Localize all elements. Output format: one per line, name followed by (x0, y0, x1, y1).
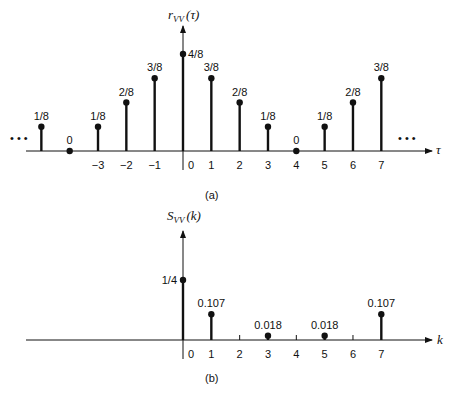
a-tick-label: 6 (350, 159, 356, 171)
a-stem: 2/8 (232, 86, 247, 152)
a-value-label: 2/8 (232, 86, 247, 98)
a-tick-label: 2 (237, 159, 243, 171)
b-tick-label: 1 (208, 348, 214, 360)
a-value-label: 3/8 (374, 61, 389, 73)
a-value-label: 0 (67, 134, 73, 146)
b-tick-label: 4 (293, 348, 299, 360)
a-tick-label: 7 (378, 159, 384, 171)
b-stem: 0.107 (368, 297, 396, 340)
b-stem: 1/4 (162, 274, 186, 340)
a-stem: 3/8 (147, 61, 162, 151)
a-tick-label: 1 (208, 159, 214, 171)
b-tick-label: 3 (265, 348, 271, 360)
a-value-label: 2/8 (119, 86, 134, 98)
b-ylabel: SVV(k) (167, 208, 201, 225)
a-stem: 1/8 (260, 110, 275, 151)
a-value-label: 1/8 (317, 110, 332, 122)
b-panel-label: (b) (205, 372, 218, 384)
a-stem: 1/8 (90, 110, 105, 151)
panel-a: rVV(τ) τ • • • • • • 1/801/82/83/84/83/8… (10, 7, 442, 201)
b-tick-label: 0 (188, 348, 194, 360)
a-tick-label: −2 (120, 159, 133, 171)
a-value-label: 0 (293, 134, 299, 146)
a-tick-label: 4 (293, 159, 299, 171)
a-value-label: 2/8 (345, 86, 360, 98)
a-value-label: 3/8 (147, 61, 162, 73)
a-stem: 1/8 (34, 110, 49, 151)
b-value-label: 0.107 (368, 297, 396, 309)
b-value-label: 1/4 (162, 274, 177, 286)
b-tick-label: 2 (237, 348, 243, 360)
b-tick-labels: 01234567 (188, 335, 384, 360)
a-stem: 2/8 (119, 86, 134, 152)
a-value-label: 1/8 (260, 110, 275, 122)
b-xlabel: k (437, 332, 443, 347)
b-stems: 1/40.1070.0180.0180.107 (162, 274, 395, 340)
a-tick-label: 3 (265, 159, 271, 171)
a-xlabel: τ (436, 142, 442, 157)
figure: rVV(τ) τ • • • • • • 1/801/82/83/84/83/8… (0, 0, 454, 393)
a-value-label: 1/8 (90, 110, 105, 122)
b-value-label: 0.107 (198, 297, 226, 309)
a-stem: 0 (66, 134, 72, 154)
b-stem: 0.018 (311, 319, 339, 340)
a-ylabel: rVV(τ) (168, 7, 199, 24)
b-stem: 0.018 (254, 319, 282, 340)
a-tick-label: −1 (148, 159, 161, 171)
a-stem: 1/8 (317, 110, 332, 151)
a-value-label: 4/8 (188, 48, 203, 60)
a-value-label: 3/8 (204, 61, 219, 73)
a-stem: 4/8 (180, 48, 203, 151)
a-stem: 3/8 (204, 61, 219, 151)
b-tick-label: 7 (378, 348, 384, 360)
b-tick-label: 6 (350, 348, 356, 360)
a-dots-left: • • • (10, 132, 28, 144)
a-stem: 2/8 (345, 86, 360, 152)
a-tick-labels: −3−2−101234567 (92, 159, 385, 171)
panel-b: SVV(k) k 1/40.1070.0180.0180.107 0123456… (26, 208, 443, 384)
a-stem: 0 (293, 134, 299, 154)
b-stem: 0.107 (198, 297, 226, 340)
b-tick-label: 5 (322, 348, 328, 360)
a-stem: 3/8 (374, 61, 389, 151)
a-stems: 1/801/82/83/84/83/82/81/801/82/83/8 (34, 48, 389, 154)
a-tick-label: −3 (92, 159, 105, 171)
a-panel-label: (a) (205, 189, 218, 201)
a-value-label: 1/8 (34, 110, 49, 122)
a-dots-right: • • • (398, 132, 416, 144)
b-value-label: 0.018 (254, 319, 282, 331)
a-tick-label: 5 (322, 159, 328, 171)
a-tick-label: 0 (188, 159, 194, 171)
b-value-label: 0.018 (311, 319, 339, 331)
